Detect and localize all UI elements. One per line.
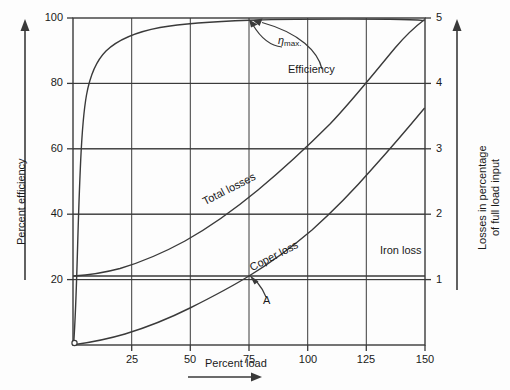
y-axis-left-arrowhead [21, 19, 30, 31]
y-axis-right-arrowhead [453, 19, 462, 31]
tickmarks-left [67, 18, 73, 280]
annotation-point-a: A [263, 295, 270, 306]
y-tick-left-60: 60 [36, 143, 63, 154]
y-tick-right-5: 5 [436, 12, 442, 23]
x-tick-125: 125 [346, 354, 386, 365]
y-tick-left-20: 20 [36, 274, 63, 285]
tickmarks-right [425, 18, 431, 280]
y-axis-left-title: Percent efficiency [16, 158, 27, 245]
x-tick-100: 100 [288, 354, 328, 365]
y-axis-right-title-line1: Losses in percentage [477, 145, 488, 250]
curve-label-iron-loss: Iron loss [380, 245, 422, 256]
eta-subscript: max. [284, 39, 301, 48]
y-tick-left-80: 80 [36, 77, 63, 88]
y-tick-left-100: 100 [36, 12, 63, 23]
chart-figure: 100 80 60 40 20 5 4 3 2 1 25 50 75 100 1… [0, 0, 510, 390]
curve-label-eta-max: ηmax. [278, 35, 301, 48]
x-tick-25: 25 [112, 354, 152, 365]
y-tick-right-3: 3 [436, 143, 442, 154]
tickmarks-bottom [132, 345, 425, 351]
chart-plot-svg [0, 0, 510, 390]
origin-marker [72, 340, 77, 345]
y-tick-right-1: 1 [436, 274, 442, 285]
x-axis-title: Percent load [205, 358, 267, 369]
y-axis-right-title-line2: of full load input [490, 159, 501, 236]
x-tick-150: 150 [405, 354, 445, 365]
y-tick-right-2: 2 [436, 208, 442, 219]
curve-label-efficiency: Efficiency [288, 64, 335, 75]
y-tick-left-40: 40 [36, 208, 63, 219]
x-axis-arrowhead [251, 373, 262, 382]
y-tick-right-4: 4 [436, 77, 442, 88]
x-tick-50: 50 [170, 354, 210, 365]
